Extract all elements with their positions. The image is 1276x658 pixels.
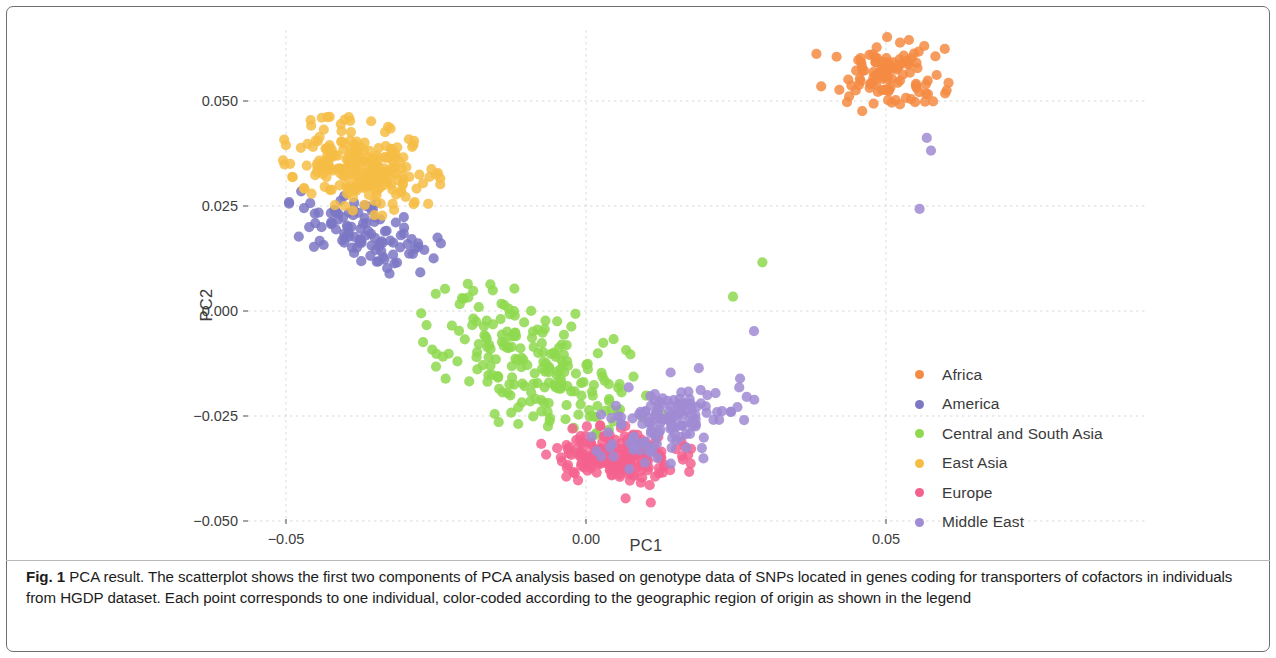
data-points [278,32,954,508]
legend-item-label: Middle East [942,513,1024,531]
legend-item[interactable]: Middle East [915,508,1175,538]
figure-caption: Fig. 1 PCA result. The scatterplot shows… [26,566,1258,609]
legend-swatch-icon [915,518,924,527]
legend-item-label: East Asia [942,454,1008,472]
legend-swatch-icon [915,429,924,438]
legend-swatch-icon [915,488,924,497]
legend-swatch-icon [915,370,924,379]
y-tick-label: 0.050 [190,93,238,109]
x-tick-label: 0.00 [572,531,600,547]
series-middle-east [586,363,759,474]
legend-swatch-icon [915,400,924,409]
legend: AfricaAmericaCentral and South AsiaEast … [915,360,1175,537]
legend-item[interactable]: East Asia [915,449,1175,479]
legend-swatch-icon [915,459,924,468]
legend-item[interactable]: Africa [915,360,1175,390]
legend-item-label: America [942,395,1000,413]
caption-body: PCA result. The scatterplot shows the fi… [26,568,1232,606]
figure-container: PC1 PC2 −0.050.000.050.0500.0250.000−0.0… [0,0,1276,658]
legend-item[interactable]: America [915,390,1175,420]
x-tick-label: −0.05 [268,531,305,547]
y-tick-label: 0.000 [190,303,238,319]
legend-item-label: Europe [942,484,993,502]
series-america [284,184,446,278]
legend-item[interactable]: Central and South Asia [915,419,1175,449]
caption-divider [6,560,1270,561]
y-tick-label: 0.025 [190,198,238,214]
x-tick-label: 0.05 [872,531,900,547]
legend-item-label: Central and South Asia [942,425,1103,443]
caption-figure-number: Fig. 1 [26,568,65,585]
y-tick-label: −0.050 [190,513,238,529]
y-tick-label: −0.025 [190,408,238,424]
x-axis-title: PC1 [630,536,663,555]
legend-item-label: Africa [942,366,982,384]
legend-item[interactable]: Europe [915,478,1175,508]
